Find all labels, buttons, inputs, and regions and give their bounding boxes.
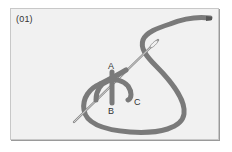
point-a-label: A [108,61,114,71]
stitch-diagram: A B C [0,0,232,152]
point-c-label: C [134,97,141,107]
thread-loop [111,22,212,86]
thread-tail [84,17,210,132]
point-b-label: B [108,106,114,116]
